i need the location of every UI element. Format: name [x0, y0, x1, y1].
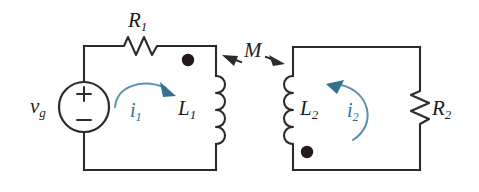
label-r2-subscript: 2 [445, 107, 452, 122]
current-i2-arrowhead-icon [326, 80, 344, 94]
label-r1-symbol: R [128, 8, 141, 32]
resistor-r2-symbol [411, 85, 429, 130]
inductor-l1-symbol [216, 76, 225, 144]
circuit-diagram: R1 vg L1 M L2 R2 i1 i2 [0, 0, 479, 192]
label-i1-subscript: 1 [136, 110, 142, 124]
label-m-symbol: M [244, 38, 262, 62]
label-l1-subscript: 1 [190, 107, 197, 122]
label-l2-subscript: 2 [312, 107, 319, 122]
label-l2-symbol: L [300, 96, 312, 120]
label-mutual-inductance: M [244, 40, 262, 61]
mutual-arrow-right-head-icon [269, 55, 285, 66]
label-resistor-r1: R1 [128, 10, 147, 33]
label-r2-symbol: R [432, 96, 445, 120]
label-i2-subscript: 2 [353, 110, 359, 124]
mutual-arrow-left-head-icon [222, 55, 238, 66]
label-inductor-l2: L2 [300, 98, 318, 121]
polarity-dot-l2 [301, 146, 313, 158]
label-source-voltage: vg [30, 96, 46, 119]
polarity-dot-l1 [182, 54, 194, 66]
label-r1-subscript: 1 [141, 19, 148, 34]
circuit-schematic-canvas [0, 0, 479, 192]
label-resistor-r2: R2 [432, 98, 451, 121]
label-current-i1: i1 [130, 100, 142, 123]
current-i1-arrowhead-icon [160, 82, 176, 97]
label-current-i2: i2 [347, 100, 359, 123]
label-vg-symbol: v [30, 94, 39, 118]
resistor-r1-symbol [118, 37, 163, 55]
inductor-l2-symbol [284, 76, 293, 144]
label-l1-symbol: L [178, 96, 190, 120]
label-inductor-l1: L1 [178, 98, 196, 121]
label-vg-subscript: g [39, 105, 46, 120]
